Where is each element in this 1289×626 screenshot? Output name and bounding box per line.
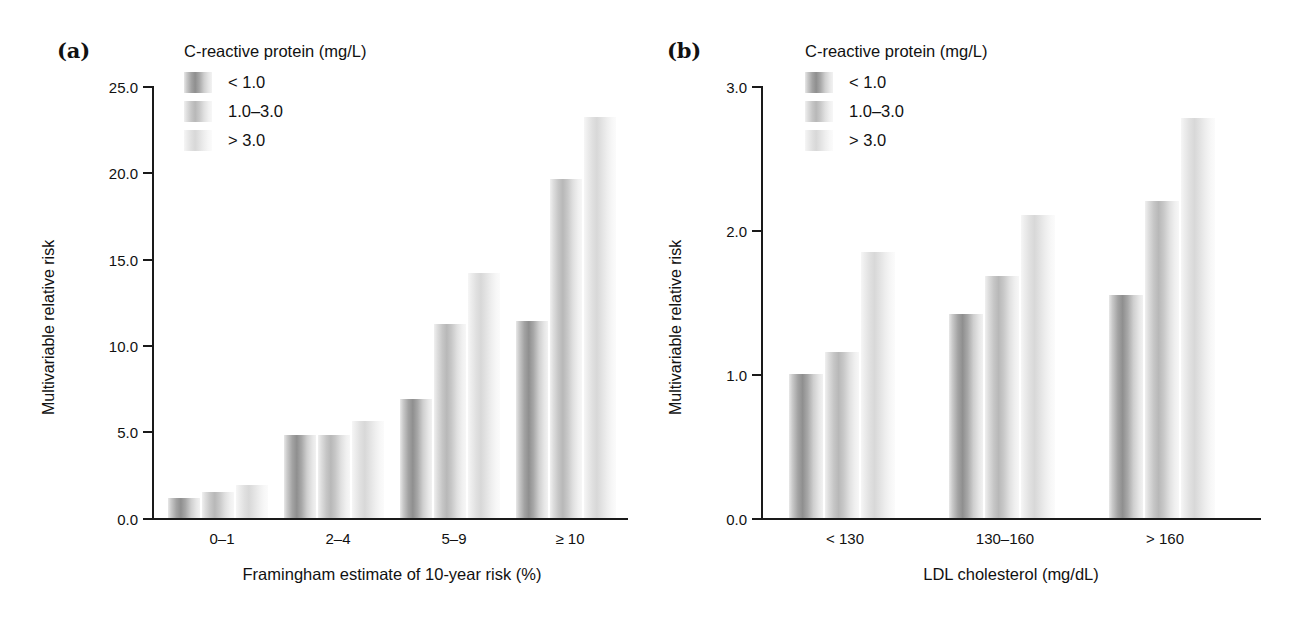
panel-a-group-ge-10: [516, 86, 620, 518]
panel-a-ytick-20: [143, 172, 152, 174]
panel-a: (a) C-reactive protein (mg/L) < 1.0 1.0–…: [0, 0, 645, 626]
panel-b-xtick-label-2: > 160: [1146, 530, 1184, 547]
bar-b-g2-1to3: [985, 276, 1019, 518]
panel-b-ytick-label-0: 0.0: [693, 511, 747, 528]
bar-a-g2-gt3: [352, 421, 384, 518]
bar-a-g4-gt3: [584, 117, 616, 518]
bar-a-g1-lt1: [168, 498, 200, 518]
panel-a-xtick-label-0: 0–1: [209, 530, 234, 547]
panel-a-ytick-5: [143, 431, 152, 433]
panel-b-bars: [763, 86, 1261, 518]
bar-b-g2-lt1: [949, 314, 983, 518]
figure-root: (a) C-reactive protein (mg/L) < 1.0 1.0–…: [0, 0, 1289, 626]
panel-a-group-0-1: [168, 86, 272, 518]
panel-a-ytick-0: [143, 518, 152, 520]
panel-b-ytick-label-3: 3.0: [693, 79, 747, 96]
bar-a-g3-1to3: [434, 324, 466, 518]
panel-a-letter: (a): [57, 38, 90, 63]
panel-b-ytick-1: [752, 374, 761, 376]
panel-a-ytick-label-0: 0.0: [80, 511, 138, 528]
panel-b-letter: (b): [667, 38, 701, 63]
bar-b-g3-1to3: [1145, 201, 1179, 518]
panel-b: (b) C-reactive protein (mg/L) < 1.0 1.0–…: [645, 0, 1289, 626]
panel-a-ytick-label-15: 15.0: [80, 252, 138, 269]
panel-a-x-axis-title: Framingham estimate of 10-year risk (%): [243, 565, 542, 584]
panel-a-ytick-label-20: 20.0: [80, 165, 138, 182]
panel-b-ytick-label-1: 1.0: [693, 367, 747, 384]
panel-a-group-5-9: [400, 86, 504, 518]
panel-b-group-lt-130: [789, 86, 901, 518]
panel-b-ytick-label-2: 2.0: [693, 223, 747, 240]
panel-b-group-gt-160: [1109, 86, 1221, 518]
panel-a-ytick-10: [143, 345, 152, 347]
panel-a-ytick-15: [143, 259, 152, 261]
bar-b-g3-gt3: [1181, 118, 1215, 518]
panel-b-group-130-160: [949, 86, 1061, 518]
panel-a-xtick-label-2: 5–9: [441, 530, 466, 547]
panel-a-xtick-label-1: 2–4: [325, 530, 350, 547]
panel-b-ytick-0: [752, 518, 761, 520]
bar-a-g3-gt3: [468, 273, 500, 518]
panel-a-ytick-25: [143, 86, 152, 88]
panel-b-x-axis-title: LDL cholesterol (mg/dL): [923, 565, 1098, 584]
panel-b-ytick-2: [752, 230, 761, 232]
bar-a-g3-lt1: [400, 399, 432, 518]
bar-b-g1-1to3: [825, 352, 859, 518]
panel-b-legend-title: C-reactive protein (mg/L): [805, 42, 987, 61]
panel-b-x-axis-line: [761, 518, 1261, 520]
panel-a-xtick-label-3: ≥ 10: [555, 530, 584, 547]
bar-b-g1-gt3: [861, 252, 895, 518]
panel-b-ytick-3: [752, 86, 761, 88]
bar-a-g4-1to3: [550, 179, 582, 518]
bar-b-g3-lt1: [1109, 295, 1143, 518]
panel-a-y-axis-title: Multivariable relative risk: [40, 240, 58, 415]
panel-a-ytick-label-25: 25.0: [80, 79, 138, 96]
panel-b-xtick-label-1: 130–160: [976, 530, 1034, 547]
panel-a-x-axis-line: [152, 518, 628, 520]
panel-b-y-axis-title: Multivariable relative risk: [667, 240, 685, 415]
bar-a-g2-1to3: [318, 435, 350, 518]
panel-a-legend-title: C-reactive protein (mg/L): [184, 42, 366, 61]
panel-a-group-2-4: [284, 86, 388, 518]
panel-b-xtick-label-0: < 130: [826, 530, 864, 547]
bar-a-g2-lt1: [284, 435, 316, 518]
panel-a-bars: [154, 86, 628, 518]
panel-a-ytick-label-5: 5.0: [80, 424, 138, 441]
bar-a-g1-1to3: [202, 492, 234, 518]
bar-a-g4-lt1: [516, 321, 548, 518]
bar-b-g2-gt3: [1021, 215, 1055, 518]
bar-b-g1-lt1: [789, 374, 823, 518]
bar-a-g1-gt3: [236, 485, 268, 518]
panel-a-ytick-label-10: 10.0: [80, 338, 138, 355]
